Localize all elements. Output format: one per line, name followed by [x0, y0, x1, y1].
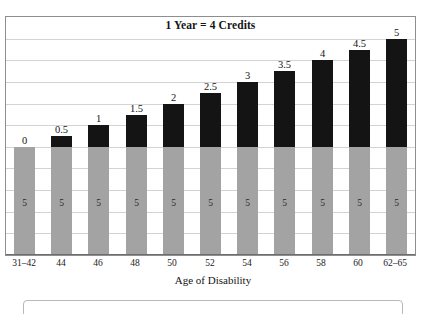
bar-label-gray: 5	[88, 198, 109, 208]
bar-segment-black	[237, 82, 258, 147]
bar-group: 5050.55151.55252.55353.55454.555	[6, 17, 415, 255]
bar-value-label: 4.5	[341, 38, 378, 49]
bar-segment-black	[126, 115, 147, 147]
x-axis-tick-labels: 31–4244464850525456586062–65	[5, 258, 416, 272]
bar-value-label: 0.5	[43, 124, 80, 135]
bar-label-gray: 5	[200, 198, 221, 208]
bar-segment-black	[274, 71, 295, 147]
bar-label-gray: 5	[126, 198, 147, 208]
bar-label-gray: 5	[274, 198, 295, 208]
chart-frame: 1 Year = 4 Credits 5050.55151.55252.5535…	[5, 16, 416, 256]
bar-value-label: 4	[304, 48, 341, 59]
x-axis-tick-label: 62–65	[372, 258, 418, 268]
bar-column[interactable]: 52.5	[200, 17, 221, 255]
bar-value-label: 3	[229, 70, 266, 81]
bar-value-label: 3.5	[266, 59, 303, 70]
bar-column[interactable]: 53.5	[274, 17, 295, 255]
bar-label-gray: 5	[237, 198, 258, 208]
bar-column[interactable]: 51.5	[126, 17, 147, 255]
bar-segment-black	[312, 60, 333, 147]
bar-label-gray: 5	[312, 198, 333, 208]
bar-column[interactable]: 51	[88, 17, 109, 255]
bar-column[interactable]: 52	[163, 17, 184, 255]
bar-segment-black	[386, 39, 407, 147]
bar-value-label: 1.5	[118, 103, 155, 114]
cut-off-heading-sliver	[0, 0, 426, 13]
x-axis-title: Age of Disability	[0, 274, 426, 286]
bar-column[interactable]: 54.5	[349, 17, 370, 255]
bar-value-label: 2.5	[192, 81, 229, 92]
bar-value-label: 2	[155, 92, 192, 103]
bar-label-gray: 5	[14, 198, 35, 208]
bar-label-gray: 5	[163, 198, 184, 208]
bar-column[interactable]: 50.5	[51, 17, 72, 255]
bar-segment-black	[88, 125, 109, 147]
bar-column[interactable]: 50	[14, 17, 35, 255]
bar-value-label: 0	[6, 135, 43, 146]
bar-column[interactable]: 54	[312, 17, 333, 255]
chart-page: 1 Year = 4 Credits 5050.55151.55252.5535…	[0, 0, 426, 314]
bar-label-gray: 5	[386, 198, 407, 208]
bar-segment-black	[200, 93, 221, 147]
bar-value-label: 1	[80, 113, 117, 124]
bar-column[interactable]: 55	[386, 17, 407, 255]
bar-segment-black	[51, 136, 72, 147]
bar-column[interactable]: 53	[237, 17, 258, 255]
bar-label-gray: 5	[349, 198, 370, 208]
bar-segment-black	[349, 50, 370, 147]
bottom-empty-box	[23, 300, 403, 314]
bar-value-label: 5	[378, 27, 415, 38]
bar-segment-black	[163, 104, 184, 147]
axis-baseline	[6, 254, 415, 255]
bar-label-gray: 5	[51, 198, 72, 208]
plot-area: 1 Year = 4 Credits 5050.55151.55252.5535…	[6, 17, 415, 255]
